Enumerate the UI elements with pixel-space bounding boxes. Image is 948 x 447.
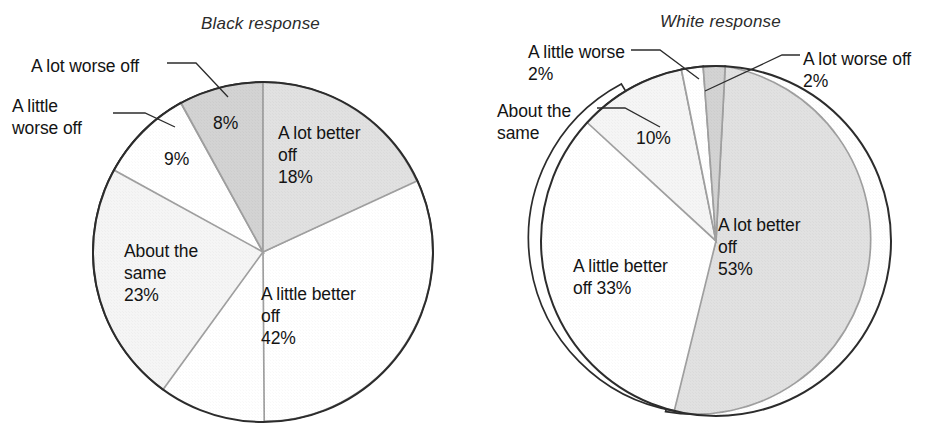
chart-title-black-response: Black response [201,14,320,34]
label-white-a-little-better-off: A little better off 33% [573,255,668,299]
chart-title-white-response: White response [660,12,781,32]
label-black-a-little-better-off: A little better off 42% [261,283,356,349]
label-white-a-lot-worse-off: A lot worse off 2% [803,48,911,92]
value-black-a-little-worse-off: 9% [164,148,189,170]
pie-white-texture [541,66,891,416]
pie-black-response [25,63,488,436]
label-white-a-little-worse: A little worse 2% [528,41,625,85]
value-black-a-lot-worse-off: 8% [213,112,238,134]
label-black-a-lot-worse-off: A lot worse off [31,55,139,77]
label-white-a-lot-better-off: A lot better off 53% [718,214,800,280]
label-white-about-the-same: About the same [497,100,571,144]
label-black-a-lot-better-off: A lot better off 18% [278,122,360,188]
pie-chart-figure: Black response White response A lot wors… [0,0,948,447]
label-black-about-the-same: About the same 23% [124,240,198,306]
label-black-a-little-worse-off: A little worse off [12,95,82,139]
value-white-about-the-same: 10% [636,127,671,149]
